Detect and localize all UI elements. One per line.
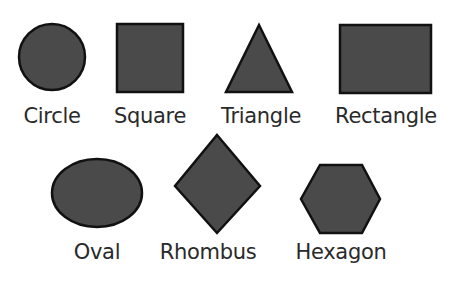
circle-label: Circle [23,104,80,128]
triangle-shape [226,25,292,92]
circle-shape [19,24,85,90]
triangle-label: Triangle [221,104,301,128]
rhombus-label: Rhombus [160,240,257,264]
shapes-worksheet: Circle Square Triangle Rectangle Oval Rh… [0,0,460,287]
oval-label: Oval [74,240,120,264]
rectangle-shape [340,25,431,93]
rectangle-label: Rectangle [335,104,437,128]
hexagon-shape [301,165,380,233]
square-shape [117,24,183,92]
square-label: Square [114,104,186,128]
rhombus-shape [175,135,260,233]
hexagon-label: Hexagon [295,240,386,264]
oval-shape [52,159,142,227]
